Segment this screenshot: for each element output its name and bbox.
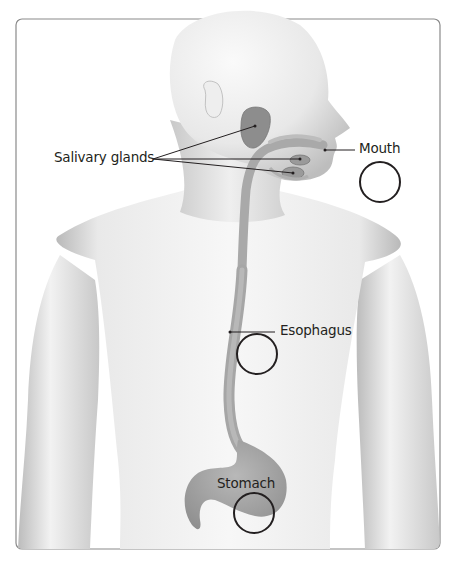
ear [204, 81, 223, 117]
label-stomach: Stomach [217, 477, 275, 491]
label-mouth: Mouth [359, 142, 400, 156]
stomach-answer-circle[interactable] [233, 492, 275, 534]
mouth-answer-circle[interactable] [359, 161, 401, 203]
digestive-system-diagram: Salivary glands Mouth Esophagus Stomach [0, 0, 457, 566]
right-arm [357, 255, 440, 549]
label-salivary-glands: Salivary glands [54, 151, 154, 165]
esophagus-answer-circle[interactable] [236, 333, 278, 375]
left-arm [18, 255, 99, 549]
label-esophagus: Esophagus [280, 324, 352, 338]
